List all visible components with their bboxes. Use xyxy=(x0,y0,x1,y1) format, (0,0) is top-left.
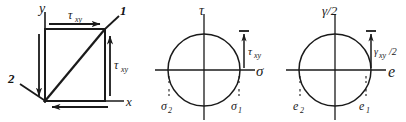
stress-radius-subscript: xy xyxy=(253,51,262,60)
figure-canvas: y x 1 2 τ xy τ xy τ σ τ xy σ 2 σ 1 xyxy=(0,0,406,122)
corner-2-leader xyxy=(20,84,44,100)
stress-horizontal-axis-label: σ xyxy=(256,63,264,79)
shear-right-subscript: xy xyxy=(120,65,129,74)
stress-sigma2-label: σ xyxy=(161,99,168,113)
element-y-axis-label: y xyxy=(37,1,46,16)
shear-right-label: τ xyxy=(114,58,119,72)
figure-root: y x 1 2 τ xy τ xy τ σ τ xy σ 2 σ 1 xyxy=(0,0,406,122)
mohr-strain-panel: γ/2 e γ xy /2 e 2 e 1 xyxy=(286,3,397,120)
shear-top-label: τ xyxy=(68,8,73,22)
shear-top-subscript: xy xyxy=(74,15,83,24)
element-x-axis-label: x xyxy=(125,94,132,109)
stress-element-panel: y x 1 2 τ xy τ xy xyxy=(7,1,132,109)
corner-1-leader xyxy=(105,16,119,29)
stress-sigma1-subscript: 1 xyxy=(238,106,242,115)
strain-horizontal-axis-label: e xyxy=(388,63,395,80)
stress-sigma1-label: σ xyxy=(231,99,238,113)
strain-radius-subscript: xy xyxy=(378,51,387,60)
strain-vertical-axis-label: γ/2 xyxy=(322,3,338,18)
strain-e2-subscript: 2 xyxy=(300,106,304,115)
strain-e2-label: e xyxy=(293,99,299,113)
strain-e1-label: e xyxy=(359,99,365,113)
mohr-stress-panel: τ σ τ xy σ 2 σ 1 xyxy=(155,3,264,120)
stress-sigma2-subscript: 2 xyxy=(168,106,172,115)
element-diagonal xyxy=(45,29,105,101)
strain-radius-suffix: /2 xyxy=(388,46,397,57)
strain-e1-subscript: 1 xyxy=(366,106,370,115)
element-corner-2-label: 2 xyxy=(7,71,15,86)
stress-radius-label: τ xyxy=(248,45,253,57)
element-corner-1-label: 1 xyxy=(120,3,127,18)
